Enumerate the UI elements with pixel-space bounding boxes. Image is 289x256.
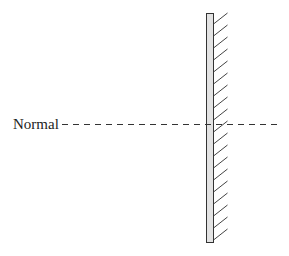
plane-mirror <box>207 14 214 243</box>
mirror-diagram: Normal <box>0 0 289 256</box>
normal-label: Normal <box>13 116 59 132</box>
